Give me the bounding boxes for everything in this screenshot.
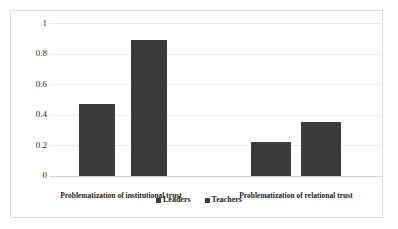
square-marker-icon (205, 198, 210, 203)
bar-leaders-relational (251, 142, 291, 176)
legend-entry-leaders: Leaders (156, 196, 191, 204)
y-tick-label: 0 (21, 171, 47, 180)
y-tick-label: 0.2 (21, 141, 47, 150)
chart-frame: 1 0.8 0.6 0.4 0.2 0 Problematization of … (10, 10, 383, 218)
legend-label: Leaders (163, 196, 191, 204)
plot-area (49, 23, 383, 186)
square-marker-icon (156, 198, 161, 203)
y-tick-label: 0.4 (21, 110, 47, 119)
y-axis: 1 0.8 0.6 0.4 0.2 0 (19, 23, 47, 186)
bar-leaders-institutional (79, 104, 115, 176)
legend-label: Teachers (212, 196, 242, 204)
y-tick-label: 1 (21, 19, 47, 28)
gridline-0-baseline (49, 176, 383, 177)
gridline-0-6 (49, 84, 383, 85)
gridline-0-8 (49, 54, 383, 55)
gridline-1 (49, 23, 383, 24)
bar-teachers-institutional (131, 40, 167, 176)
y-tick-label: 0.8 (21, 49, 47, 58)
bar-chart-figure: 1 0.8 0.6 0.4 0.2 0 Problematization of … (0, 0, 398, 229)
bar-teachers-relational (301, 122, 341, 176)
legend-entry-teachers: Teachers (205, 196, 242, 204)
chart-legend: Leaders Teachers (0, 196, 398, 204)
y-tick-label: 0.6 (21, 80, 47, 89)
